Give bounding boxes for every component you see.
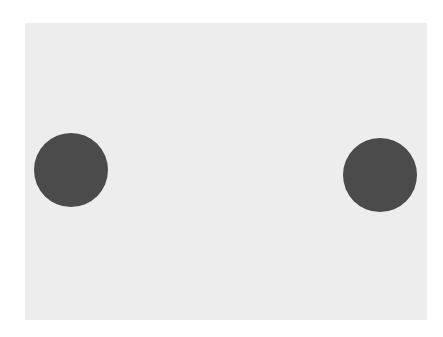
stimulus-canvas — [0, 0, 443, 337]
left-dot — [34, 133, 108, 207]
right-dot — [343, 138, 417, 212]
